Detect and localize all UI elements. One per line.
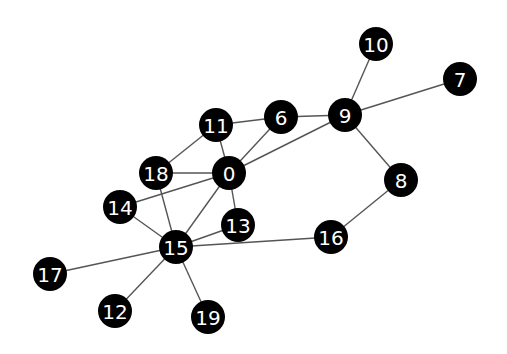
node-9: 9 — [328, 98, 362, 132]
node-18: 18 — [139, 156, 173, 190]
node-label: 0 — [223, 162, 236, 186]
node-16: 16 — [314, 220, 348, 254]
node-11: 11 — [199, 108, 233, 142]
node-label: 14 — [107, 196, 132, 220]
node-15: 15 — [159, 230, 193, 264]
edge-9-7 — [345, 79, 460, 115]
node-13: 13 — [221, 208, 255, 242]
graph-svg: 0678910111213141516171819 — [0, 0, 507, 354]
node-19: 19 — [191, 300, 225, 334]
node-17: 17 — [33, 257, 67, 291]
node-label: 10 — [363, 33, 388, 57]
node-7: 7 — [443, 62, 477, 96]
node-6: 6 — [264, 100, 298, 134]
node-label: 15 — [163, 236, 188, 260]
node-label: 11 — [203, 114, 228, 138]
node-label: 6 — [275, 106, 288, 130]
node-label: 7 — [454, 68, 467, 92]
node-10: 10 — [359, 27, 393, 61]
edge-15-17 — [50, 247, 176, 274]
node-label: 9 — [339, 104, 352, 128]
edge-0-14 — [120, 173, 229, 207]
node-label: 12 — [102, 300, 127, 324]
node-8: 8 — [384, 163, 418, 197]
node-12: 12 — [98, 294, 132, 328]
node-label: 19 — [195, 306, 220, 330]
graph-canvas: 0678910111213141516171819 — [0, 0, 507, 354]
node-14: 14 — [103, 190, 137, 224]
node-label: 8 — [395, 169, 408, 193]
node-label: 18 — [143, 162, 168, 186]
node-label: 17 — [37, 263, 62, 287]
node-label: 13 — [225, 214, 250, 238]
nodes-layer: 0678910111213141516171819 — [33, 27, 477, 334]
node-label: 16 — [318, 226, 343, 250]
node-0: 0 — [212, 156, 246, 190]
